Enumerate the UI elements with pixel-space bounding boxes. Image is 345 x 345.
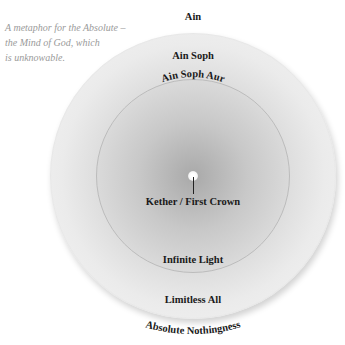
label-infinite-light: Infinite Light [163,254,223,265]
label-limitless-all: Limitless All [165,294,221,305]
label-ain-soph-aur: Ain Soph Aur [160,68,227,84]
kether-pointer-line [193,177,194,194]
label-kether: Kether / First Crown [146,196,240,207]
label-absolute-nothingness: Absolute Nothingness [144,319,241,337]
